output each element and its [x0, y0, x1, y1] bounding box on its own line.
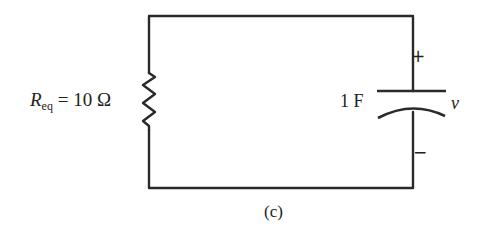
resistor-value: 10 Ω [73, 89, 111, 110]
resistor-equals: = [53, 89, 73, 110]
resistor-subscript: eq [42, 99, 53, 113]
capacitor-curved-plate [378, 108, 445, 118]
resistor-symbol: R [30, 89, 42, 110]
positive-terminal-label: + [411, 48, 425, 65]
figure-caption: (c) [264, 203, 283, 220]
top-wire [149, 16, 413, 91]
voltage-label: ν [451, 94, 459, 112]
circuit-drawing [0, 0, 480, 229]
negative-terminal-label: − [413, 144, 427, 161]
resistor-zigzag [143, 73, 155, 130]
left-lower-wire [149, 112, 413, 188]
capacitor-value-label: 1 F [340, 92, 364, 110]
resistor-label: Req = 10 Ω [30, 90, 111, 112]
